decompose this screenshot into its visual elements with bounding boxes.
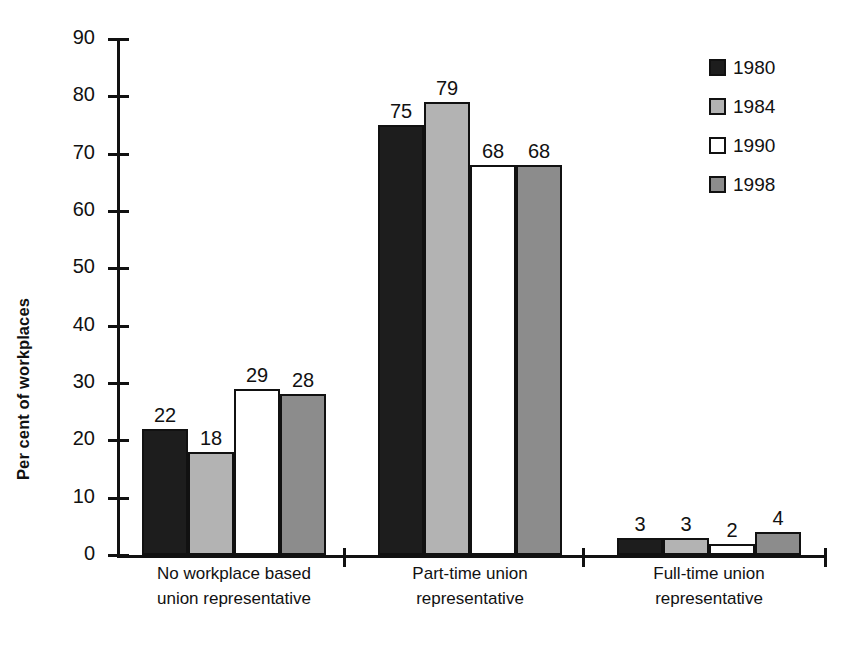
category-label-line: Full-time union [579, 561, 839, 586]
category-label-line: Part-time union [340, 561, 600, 586]
category-label-line: No workplace based [104, 561, 364, 586]
white-swatch-icon [709, 137, 726, 154]
bar-1980-group-3: 3 [617, 538, 663, 555]
y-axis-tick-label: 20 [49, 427, 95, 449]
y-axis-tick-label: 0 [49, 542, 95, 564]
bar-value-label: 75 [390, 100, 412, 122]
bar-value-label: 4 [772, 507, 783, 529]
legend-item-label: 1980 [733, 57, 775, 78]
bar-1984-group-2: 79 [424, 102, 470, 555]
bar-1998-group-2: 68 [516, 165, 562, 555]
legend-item-label: 1990 [733, 135, 775, 156]
bar-value-label: 22 [154, 404, 176, 426]
x-axis-category-label-2: Part-time unionrepresentative [340, 561, 600, 611]
y-axis-tick: 20 [108, 439, 129, 442]
bar-1990-group-2: 68 [470, 165, 516, 555]
y-axis-tick: 30 [108, 382, 129, 385]
y-axis-tick: 70 [108, 153, 129, 156]
y-axis-tick-label: 90 [49, 26, 95, 48]
legend-item-1998[interactable]: 1998 [709, 165, 839, 204]
bar-value-label: 68 [482, 140, 504, 162]
bar-value-label: 3 [634, 513, 645, 535]
bar-value-label: 29 [246, 364, 268, 386]
y-axis-title: Per cent of workplaces [14, 60, 42, 480]
bar-value-label: 79 [436, 77, 458, 99]
y-axis-tick: 50 [108, 267, 129, 270]
medium-gray-swatch-icon [709, 176, 726, 193]
y-axis-tick: 60 [108, 210, 129, 213]
bar-value-label: 28 [292, 369, 314, 391]
x-axis-category-label-3: Full-time unionrepresentative [579, 561, 839, 611]
bar-1984-group-3: 3 [663, 538, 709, 555]
light-gray-swatch-icon [709, 98, 726, 115]
chart-legend: 1980198419901998 [709, 48, 839, 204]
bar-1990-group-3: 2 [709, 544, 755, 555]
y-axis-line [117, 38, 120, 558]
y-axis-tick: 80 [108, 95, 129, 98]
category-label-line: representative [579, 586, 839, 611]
bar-1998-group-3: 4 [755, 532, 801, 555]
bar-value-label: 18 [200, 427, 222, 449]
y-axis-tick-label: 10 [49, 485, 95, 507]
y-axis-tick-label: 60 [49, 198, 95, 220]
bar-1980-group-1: 22 [142, 429, 188, 555]
bar-1980-group-2: 75 [378, 125, 424, 555]
bar-chart: Per cent of workplaces 90807060504030201… [0, 0, 855, 656]
bar-1998-group-1: 28 [280, 394, 326, 555]
bar-1984-group-1: 18 [188, 452, 234, 555]
legend-item-label: 1984 [733, 96, 775, 117]
legend-item-label: 1998 [733, 174, 775, 195]
x-axis-line [117, 555, 825, 558]
y-axis-tick-label: 50 [49, 255, 95, 277]
y-axis-tick: 10 [108, 497, 129, 500]
legend-item-1980[interactable]: 1980 [709, 48, 839, 87]
bar-1990-group-1: 29 [234, 389, 280, 555]
black-swatch-icon [709, 59, 726, 76]
y-axis-tick: 90 [108, 38, 129, 41]
legend-item-1984[interactable]: 1984 [709, 87, 839, 126]
category-label-line: representative [340, 586, 600, 611]
y-axis-tick-label: 30 [49, 370, 95, 392]
y-axis-tick: 0 [108, 554, 129, 557]
y-axis-tick-label: 70 [49, 141, 95, 163]
bar-value-label: 3 [680, 513, 691, 535]
y-axis-tick-label: 40 [49, 313, 95, 335]
y-axis-tick-label: 80 [49, 83, 95, 105]
bar-value-label: 2 [726, 519, 737, 541]
category-label-line: union representative [104, 586, 364, 611]
bar-value-label: 68 [528, 140, 550, 162]
x-axis-category-label-1: No workplace basedunion representative [104, 561, 364, 611]
legend-item-1990[interactable]: 1990 [709, 126, 839, 165]
y-axis-tick: 40 [108, 325, 129, 328]
